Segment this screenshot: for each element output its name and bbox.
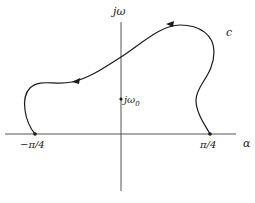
right-endpoint-label: π/4 (199, 139, 216, 150)
left-endpoint-label: −π/4 (20, 139, 45, 150)
complex-plane-diagram: jω α c jω0 −π/4 π/4 (0, 0, 255, 203)
j-omega-0-label: jω0 (122, 94, 140, 108)
contour-curve-c (25, 25, 214, 134)
arrow-head-icon (72, 78, 80, 84)
left-endpoint-dot (33, 132, 37, 136)
horizontal-axis-label: α (243, 137, 251, 150)
vertical-axis-label: jω (110, 5, 125, 18)
curve-label: c (226, 26, 232, 39)
right-endpoint-dot (208, 132, 212, 136)
j-omega-0-dot (119, 97, 122, 100)
